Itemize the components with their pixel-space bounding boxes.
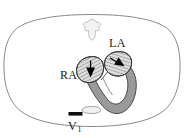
v1-lead-subscript: 1: [77, 125, 81, 134]
anatomy-illustration: [0, 0, 184, 138]
thorax-cross-section-figure: LA RA V1: [0, 0, 184, 138]
label-v1-lead: V1: [68, 120, 82, 134]
label-left-atrium: LA: [109, 37, 126, 49]
v1-electrode: [69, 112, 83, 116]
label-right-atrium: RA: [60, 69, 77, 81]
esophagus: [82, 106, 101, 113]
v1-lead-letter: V: [68, 119, 77, 133]
